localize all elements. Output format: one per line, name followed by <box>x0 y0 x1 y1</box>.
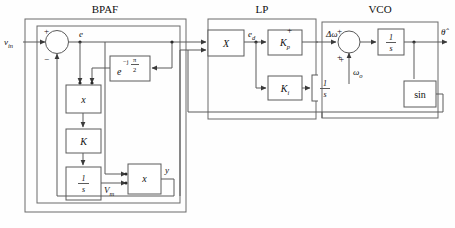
label-integrator-lp-num: 1 <box>323 79 327 88</box>
label-phase-shift-exp-sign: −j <box>123 58 129 65</box>
label-phase-shift-exp-num: π <box>133 56 137 63</box>
sign-bpaf-plus: + <box>44 26 49 36</box>
sign-bpaf-minus: − <box>44 54 49 64</box>
label-sine: sin <box>414 89 426 100</box>
label-phase-shift-exp-den: 2 <box>133 66 136 73</box>
label-delta-omega: Δω <box>325 29 338 39</box>
label-integrator-vco-den: s <box>389 44 392 53</box>
diagram-overlay: BPAF LP VCO vin + − e e −j π 2 x K 1 s V… <box>0 0 455 228</box>
label-y: y <box>164 165 169 175</box>
label-integrator-bpaf-num: 1 <box>82 174 86 183</box>
label-vm: Vm <box>104 185 115 197</box>
label-v-in: vin <box>4 37 13 49</box>
sign-vco-plus-bottom: + <box>337 52 342 62</box>
label-phase-shift-base: e <box>117 66 122 77</box>
group-title-vco: VCO <box>368 3 391 15</box>
sign-vco-plus-top: + <box>337 26 342 36</box>
label-ki: Ki <box>280 83 290 96</box>
block-diagram-figure: BPAF LP VCO vin + − e e −j π 2 x K 1 s V… <box>0 0 455 228</box>
label-ed: ed <box>248 29 256 41</box>
label-integrator-lp-den: s <box>323 90 326 99</box>
group-title-lp: LP <box>256 3 269 15</box>
label-multiplier-2: x <box>141 173 147 184</box>
label-kp: Kp <box>279 37 291 50</box>
label-gain-k: K <box>79 136 88 147</box>
label-phase-detector: X <box>222 38 230 49</box>
label-e: e <box>79 29 83 39</box>
label-multiplier-1: x <box>80 94 86 105</box>
group-title-bpaf: BPAF <box>92 3 119 15</box>
label-integrator-vco-num: 1 <box>389 33 393 42</box>
sign-lp-plus-top: + <box>287 25 292 35</box>
label-integrator-bpaf-den: s <box>82 185 85 194</box>
label-theta-hat: θ̂ <box>441 27 449 37</box>
